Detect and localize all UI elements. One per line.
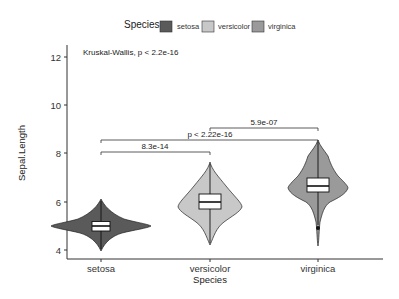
legend-label-setosa: setosa [177,22,200,31]
y-axis-title: Sepal.Length [16,125,27,181]
legend-label-versicolor: versicolor [218,22,251,31]
violin-virginica [288,140,348,246]
kruskal-wallis-annotation: Kruskal-Wallis, p < 2.2e-16 [83,48,179,57]
y-tick-12: 12 [50,52,61,63]
y-tick-10: 10 [50,100,61,111]
violin-chart: Species setosa versicolor virginica 12 1… [0,0,399,299]
x-axis-ticks: setosa versicolor virginica [87,259,336,274]
x-tick-setosa: setosa [87,263,116,274]
violin-versicolor [178,162,242,245]
boxplot-virginica [307,178,329,192]
y-tick-6: 6 [56,197,61,208]
outlier-virginica [316,226,320,230]
pvalue-setosa-versicolor: 8.3e-14 [141,142,169,151]
pvalue-setosa-virginica: p < 2.22e-16 [187,130,233,139]
legend-label-virginica: virginica [268,22,296,31]
y-tick-4: 4 [56,245,61,256]
legend-swatch-virginica [252,21,264,32]
legend: Species setosa versicolor virginica [124,19,296,32]
legend-title: Species [124,19,160,30]
legend-swatch-versicolor [202,21,214,32]
x-axis-title: Species [193,274,227,285]
violin-setosa [51,199,151,251]
legend-swatch-setosa [160,21,172,32]
pvalue-versicolor-virginica: 5.9e-07 [250,118,278,127]
y-tick-8: 8 [56,148,61,159]
bracket-setosa-virginica [101,140,318,143]
bracket-setosa-versicolor [101,152,210,155]
x-tick-versicolor: versicolor [190,263,231,274]
x-tick-virginica: virginica [301,263,337,274]
